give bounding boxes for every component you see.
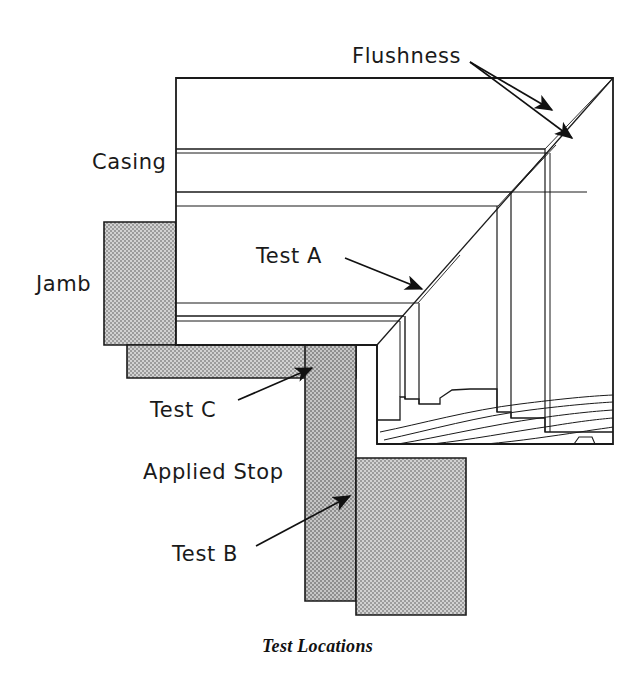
door-frame-diagram xyxy=(0,0,635,676)
test-locations-figure: Flushness Casing Jamb Test A Test C Appl… xyxy=(0,0,635,676)
label-test-b: Test B xyxy=(172,544,238,565)
label-flushness: Flushness xyxy=(352,46,461,67)
label-test-a: Test A xyxy=(256,246,322,267)
applied-stop-vertical xyxy=(305,345,356,601)
casing-assembly xyxy=(176,78,613,444)
label-casing: Casing xyxy=(92,152,167,173)
jamb-upper-block xyxy=(104,222,176,345)
figure-caption: Test Locations xyxy=(0,636,635,657)
label-jamb: Jamb xyxy=(36,274,91,295)
jamb-lower-leg xyxy=(356,458,466,615)
label-applied-stop: Applied Stop xyxy=(143,462,284,483)
label-test-c: Test C xyxy=(150,400,216,421)
